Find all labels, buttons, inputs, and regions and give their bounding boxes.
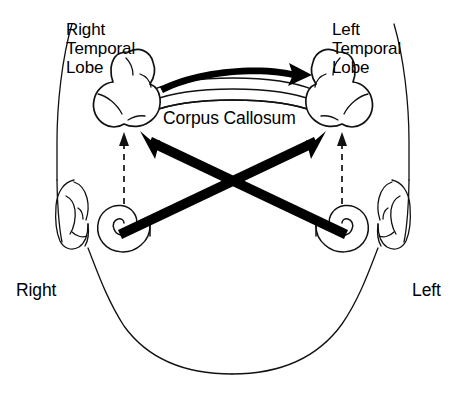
right-ear-pinna	[56, 180, 89, 249]
ipsilateral-dashed-arrow-right	[119, 132, 129, 204]
label-right-temporal-lobe: Right Temporal Lobe	[66, 20, 135, 77]
label-right-side: Right	[16, 281, 56, 300]
label-left-side: Left	[412, 281, 441, 300]
label-left-temporal-lobe: Left Temporal Lobe	[332, 20, 401, 77]
label-corpus-callosum: Corpus Callosum	[163, 109, 296, 128]
left-ear-pinna	[378, 180, 411, 249]
auditory-pathway-figure: Right Temporal Lobe Left Temporal Lobe C…	[0, 0, 466, 393]
ipsilateral-dashed-arrow-left	[337, 132, 347, 204]
